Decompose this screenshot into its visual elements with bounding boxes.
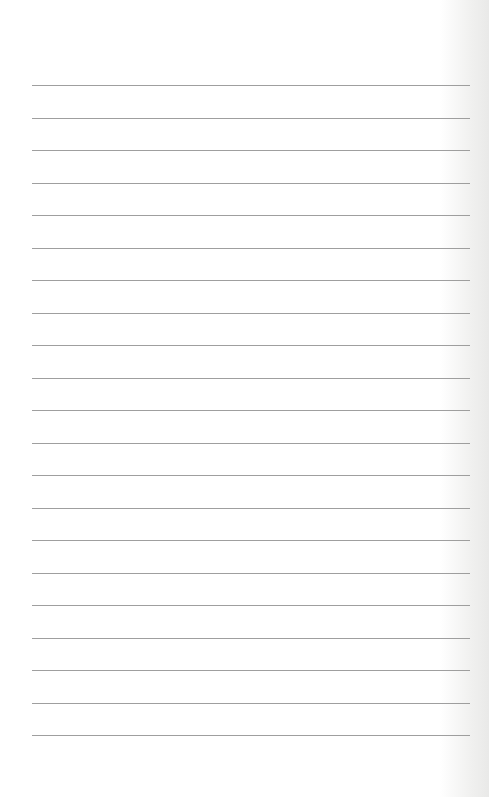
ruled-line	[32, 540, 470, 541]
ruled-line	[32, 605, 470, 606]
ruled-line	[32, 150, 470, 151]
ruled-line	[32, 573, 470, 574]
ruled-line	[32, 280, 470, 281]
ruled-line	[32, 118, 470, 119]
ruled-line	[32, 248, 470, 249]
ruled-line	[32, 475, 470, 476]
ruled-line	[32, 85, 470, 86]
ruled-line	[32, 670, 470, 671]
ruled-line	[32, 443, 470, 444]
ruled-line	[32, 508, 470, 509]
ruled-line	[32, 410, 470, 411]
ruled-line	[32, 345, 470, 346]
ruled-line	[32, 215, 470, 216]
ruled-line	[32, 735, 470, 736]
ruled-line	[32, 313, 470, 314]
ruled-line	[32, 378, 470, 379]
ruled-line	[32, 703, 470, 704]
lined-paper-page	[0, 0, 489, 797]
ruled-line	[32, 183, 470, 184]
ruled-line	[32, 638, 470, 639]
